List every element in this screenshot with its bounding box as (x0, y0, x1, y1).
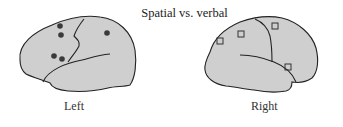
activation-dot (57, 23, 63, 29)
left-hemisphere-label: Left (64, 99, 84, 114)
activation-dot (59, 56, 65, 62)
right-hemisphere-label: Right (251, 99, 278, 114)
right-brain-outline (205, 17, 318, 92)
right-hemisphere (205, 17, 318, 92)
activation-dot (58, 32, 64, 38)
activation-dot (51, 53, 57, 59)
activation-dot (104, 30, 110, 36)
left-hemisphere (20, 16, 136, 91)
brain-diagram (0, 0, 343, 127)
